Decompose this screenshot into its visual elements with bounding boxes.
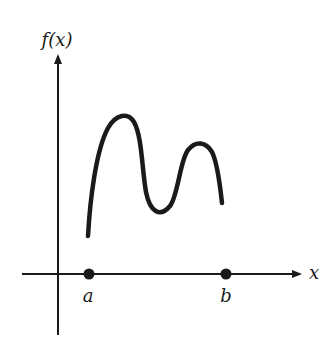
point-a-label: a <box>83 285 94 306</box>
function-graph: f(x) x a b <box>0 0 335 344</box>
point-b <box>221 269 232 280</box>
function-curve <box>88 116 222 236</box>
point-b-label: b <box>220 285 232 306</box>
point-a <box>84 269 95 280</box>
x-axis-label: x <box>309 262 319 283</box>
y-axis-label: f(x) <box>40 29 73 50</box>
